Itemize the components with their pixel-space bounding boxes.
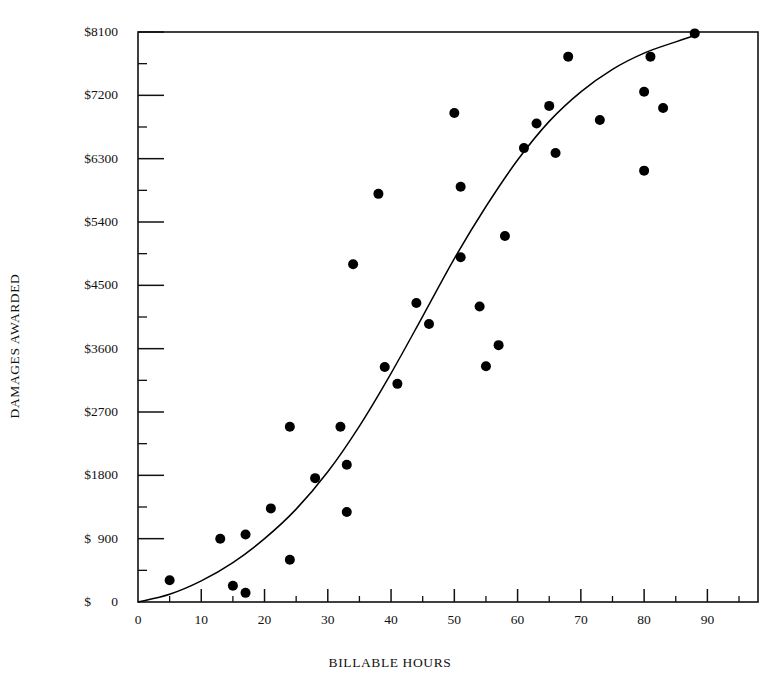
data-point xyxy=(310,473,320,483)
y-tick-label: $3600 xyxy=(40,341,118,357)
data-point xyxy=(335,422,345,432)
data-point xyxy=(519,143,529,153)
data-point xyxy=(475,301,485,311)
data-point xyxy=(373,189,383,199)
data-point xyxy=(645,52,655,62)
trend-curve-path xyxy=(138,36,695,602)
data-point xyxy=(380,362,390,372)
y-tick-label: $7200 xyxy=(40,87,118,103)
scatter-plot-figure: $ 0$ 900$1800$2700$3600$4500$5400$6300$7… xyxy=(0,0,780,692)
y-tick-label: $ 0 xyxy=(40,594,118,610)
data-points xyxy=(165,28,700,597)
data-point xyxy=(595,115,605,125)
data-point xyxy=(424,319,434,329)
plot-frame xyxy=(138,32,758,602)
x-tick-label: 30 xyxy=(321,612,335,628)
x-tick-label: 50 xyxy=(448,612,462,628)
x-tick-label: 60 xyxy=(511,612,525,628)
x-tick-label: 70 xyxy=(574,612,588,628)
data-point xyxy=(228,581,238,591)
data-point xyxy=(348,259,358,269)
data-point xyxy=(639,87,649,97)
y-tick-label: $1800 xyxy=(40,467,118,483)
x-axis-title: BILLABLE HOURS xyxy=(0,655,780,671)
y-tick-label: $ 900 xyxy=(40,531,118,547)
data-point xyxy=(266,503,276,513)
data-point xyxy=(449,108,459,118)
data-point xyxy=(411,298,421,308)
data-point xyxy=(241,529,251,539)
data-point xyxy=(392,379,402,389)
y-tick-label: $4500 xyxy=(40,277,118,293)
x-tick-label: 0 xyxy=(135,612,142,628)
x-tick-label: 40 xyxy=(384,612,398,628)
data-point xyxy=(563,52,573,62)
trend-line xyxy=(138,36,695,602)
x-axis-ticks xyxy=(170,589,739,602)
data-point xyxy=(285,422,295,432)
data-point xyxy=(285,555,295,565)
data-point xyxy=(342,460,352,470)
y-tick-label: $2700 xyxy=(40,404,118,420)
x-tick-label: 10 xyxy=(195,612,209,628)
data-point xyxy=(494,340,504,350)
y-axis-title: DAMAGES AWARDED xyxy=(0,0,30,692)
data-point xyxy=(551,148,561,158)
data-point xyxy=(241,588,251,598)
data-point xyxy=(500,231,510,241)
data-point xyxy=(532,118,542,128)
data-point xyxy=(481,361,491,371)
plot-border xyxy=(138,32,758,602)
data-point xyxy=(658,103,668,113)
data-point xyxy=(456,182,466,192)
data-point xyxy=(215,534,225,544)
y-tick-label: $6300 xyxy=(40,151,118,167)
y-tick-label: $8100 xyxy=(40,24,118,40)
y-tick-label: $5400 xyxy=(40,214,118,230)
data-point xyxy=(456,252,466,262)
data-point xyxy=(165,575,175,585)
x-tick-label: 20 xyxy=(258,612,272,628)
data-point xyxy=(690,28,700,38)
x-tick-label: 90 xyxy=(701,612,715,628)
data-point xyxy=(639,166,649,176)
x-tick-label: 80 xyxy=(637,612,651,628)
data-point xyxy=(544,101,554,111)
data-point xyxy=(342,507,352,517)
y-axis-ticks xyxy=(138,32,164,570)
